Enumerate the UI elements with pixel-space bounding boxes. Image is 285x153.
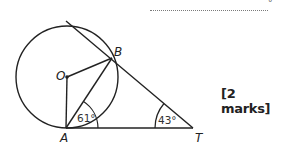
angle-label-a: 61° — [77, 112, 96, 124]
radius-oa — [66, 77, 67, 128]
angle-label-t: 43° — [158, 114, 177, 126]
label-o: O — [56, 69, 65, 83]
label-b: B — [114, 45, 122, 59]
label-t: T — [195, 131, 204, 145]
marks-label: [2 marks] — [221, 86, 285, 116]
geometry-diagram: O B A T 61° 43° — [0, 0, 285, 153]
label-a: A — [59, 131, 68, 145]
center-point-o — [65, 75, 69, 79]
